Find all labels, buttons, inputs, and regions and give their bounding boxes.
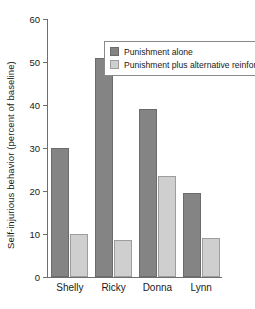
- y-axis-tick-mark: [43, 148, 47, 149]
- y-axis-tick-label: 30: [29, 143, 40, 154]
- bar-chart-figure: Self-injurious behavior (percent of base…: [0, 0, 255, 309]
- bar-ricky-series1: [95, 58, 113, 277]
- legend-item-1: Punishment alone: [110, 45, 255, 58]
- y-axis-tick-mark: [43, 191, 47, 192]
- bar-shelly-series1: [51, 148, 69, 277]
- x-axis-line: [47, 277, 222, 278]
- y-axis-tick-mark: [43, 62, 47, 63]
- bar-lynn-series2: [202, 238, 220, 277]
- y-axis-tick-label: 40: [29, 100, 40, 111]
- y-axis-tick-label: 60: [29, 14, 40, 25]
- y-axis-tick-mark: [43, 234, 47, 235]
- legend-swatch-icon-2: [110, 60, 119, 69]
- legend-swatch-icon-1: [110, 47, 119, 56]
- bar-shelly-series2: [70, 234, 88, 277]
- bar-donna-series2: [158, 176, 176, 277]
- x-axis-tick-label-donna: Donna: [143, 282, 172, 293]
- y-axis-title-container: Self-injurious behavior (percent of base…: [0, 0, 20, 309]
- x-axis-tick-label-shelly: Shelly: [56, 282, 83, 293]
- x-axis-tick-label-lynn: Lynn: [190, 282, 211, 293]
- y-axis-tick-label: 20: [29, 186, 40, 197]
- x-axis-tick-label-ricky: Ricky: [101, 282, 125, 293]
- legend-label-1: Punishment alone: [124, 47, 193, 57]
- legend-item-2: Punishment plus alternative reinforcer: [110, 58, 255, 71]
- y-axis-tick-label: 0: [35, 272, 40, 283]
- y-axis-title: Self-injurious behavior (percent of base…: [5, 61, 16, 249]
- y-axis-tick-mark: [43, 19, 47, 20]
- y-axis-tick-mark: [43, 277, 47, 278]
- y-axis-tick-label: 50: [29, 57, 40, 68]
- y-axis-tick-mark: [43, 105, 47, 106]
- plot-area: 0102030405060 ShellyRickyDonnaLynn Punis…: [47, 19, 222, 277]
- chart-legend: Punishment alonePunishment plus alternat…: [104, 41, 255, 76]
- bar-donna-series1: [139, 109, 157, 277]
- legend-label-2: Punishment plus alternative reinforcer: [124, 60, 255, 70]
- y-axis-tick-label: 10: [29, 229, 40, 240]
- bar-lynn-series1: [183, 193, 201, 277]
- bar-ricky-series2: [114, 240, 132, 277]
